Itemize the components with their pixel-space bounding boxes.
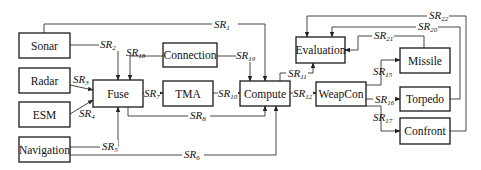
label-sr18: SR18: [126, 46, 146, 60]
node-label: TMA: [175, 88, 201, 100]
node-fuse: Fuse: [93, 80, 143, 107]
label-sr3: SR3: [73, 73, 89, 87]
node-label: Compute: [244, 88, 286, 101]
node-label: Evaluation: [296, 44, 346, 56]
node-torpedo: Torpedo: [400, 87, 450, 111]
node-label: Sonar: [31, 40, 58, 52]
node-compute: Compute: [240, 81, 290, 106]
label-sr4: SR4: [79, 107, 95, 121]
node-label: Connection: [163, 49, 216, 61]
node-evaluation: Evaluation: [296, 37, 346, 63]
edge-sr3: [70, 85, 93, 90]
node-label: Torpedo: [406, 93, 444, 106]
node-navigation: Navigation: [19, 137, 70, 162]
node-tma: TMA: [163, 81, 213, 106]
node-label: Confront: [404, 125, 446, 137]
label-sr17: SR17: [373, 111, 393, 125]
node-sonar: Sonar: [19, 33, 70, 58]
node-missile: Missile: [400, 48, 450, 73]
edge-sr18: [130, 56, 163, 80]
node-label: Fuse: [107, 88, 129, 100]
label-sr15: SR15: [373, 65, 393, 79]
node-connection: Connection: [163, 43, 217, 67]
node-weapcon: WeapCon: [316, 82, 366, 106]
node-label: WeapCon: [318, 88, 363, 101]
node-label: Missile: [408, 55, 442, 67]
node-label: Navigation: [19, 144, 70, 157]
node-label: ESM: [33, 109, 57, 121]
node-label: Radar: [31, 75, 59, 87]
node-confront: Confront: [400, 118, 450, 144]
node-radar: Radar: [19, 68, 70, 93]
node-esm: ESM: [19, 102, 70, 127]
block-diagram: SR1 SR2 SR18 SR3 SR4 SR5 SR6 SR8 SR7 SR1…: [0, 0, 481, 170]
